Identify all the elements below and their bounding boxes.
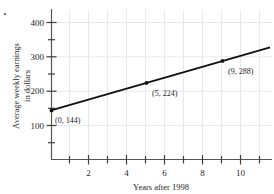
corner-artifact-dot [4, 13, 6, 15]
data-point [50, 109, 54, 113]
grid-lines [51, 10, 272, 160]
y-tick-label-400: 400 [31, 18, 45, 28]
y-axis-title-line2: in dollars [22, 70, 32, 102]
y-tick-label-300: 300 [31, 52, 45, 62]
point-label-9-288: (9, 288) [228, 67, 254, 76]
point-label-5-224: (5, 224) [152, 89, 178, 98]
y-tick-label-200: 200 [31, 86, 45, 96]
line-chart: 400 300 200 100 2 4 6 8 10 [0, 0, 274, 194]
y-tick-label-100: 100 [31, 121, 45, 131]
x-tick-label-6: 6 [162, 168, 167, 178]
x-tick-label-4: 4 [124, 168, 129, 178]
x-tick-label-2: 2 [86, 168, 91, 178]
axes [52, 9, 273, 160]
x-tick-label-10: 10 [236, 168, 246, 178]
x-tick-label-8: 8 [200, 168, 205, 178]
y-axis-title-line1: Average weekly earnings [11, 43, 21, 129]
data-point [221, 59, 225, 63]
x-axis-title: Years after 1998 [133, 182, 189, 192]
point-label-0-144: (0, 144) [55, 116, 81, 125]
chart-figure: 400 300 200 100 2 4 6 8 10 [0, 0, 274, 194]
data-point [145, 81, 149, 85]
y-axis-title: Average weekly earnings in dollars [11, 43, 32, 129]
